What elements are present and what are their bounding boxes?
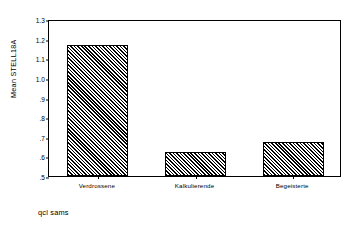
y-axis-title: Mean STELL18A	[10, 39, 17, 98]
bar	[67, 45, 128, 176]
chart-caption: qcl sams	[38, 209, 69, 216]
bars-layer	[49, 21, 340, 176]
bar	[263, 142, 324, 176]
x-axis-category-label: Verdrossene	[79, 183, 115, 189]
bar	[165, 152, 226, 176]
x-axis-tick-mark	[293, 176, 294, 179]
y-axis-tick-mark	[46, 21, 49, 22]
y-axis-tick-mark	[46, 178, 49, 179]
plot-area: 1.31.21.11.0.9.8.7.6.5	[48, 20, 341, 177]
y-axis-tick-mark	[46, 40, 49, 41]
x-axis-category-label: Begeisterte	[276, 183, 309, 189]
x-axis-category-label: Kalkulierende	[175, 183, 214, 189]
bar-chart-figure: Mean STELL18A 1.31.21.11.0.9.8.7.6.5 Ver…	[0, 0, 361, 233]
y-axis-tick-mark	[46, 158, 49, 159]
y-axis-tick-mark	[46, 119, 49, 120]
y-axis-tick-mark	[46, 60, 49, 61]
y-axis-tick-mark	[46, 79, 49, 80]
x-axis-tick-mark	[98, 176, 99, 179]
y-axis-tick-mark	[46, 138, 49, 139]
y-axis-tick-mark	[46, 99, 49, 100]
x-axis-tick-mark	[196, 176, 197, 179]
